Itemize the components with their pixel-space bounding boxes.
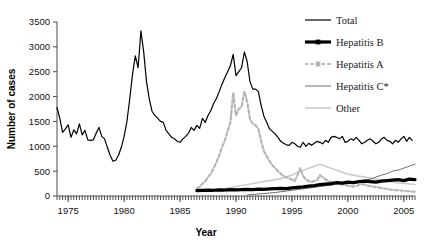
legend-label: Hepatitis B <box>336 37 384 48</box>
legend-swatch-marker <box>316 62 321 67</box>
legend-item-total: Total <box>305 15 358 26</box>
legend-item-hepatitis-b: Hepatitis B <box>305 37 384 48</box>
chart-root: 0500100015002000250030003500197519801985… <box>0 0 426 248</box>
series-line-hepatitis-a <box>197 92 415 192</box>
hepatitis-cases-line-chart: 0500100015002000250030003500197519801985… <box>0 0 426 248</box>
x-tick-label-2005: 2005 <box>393 205 414 216</box>
x-tick-label-1995: 1995 <box>281 205 302 216</box>
plot-area <box>57 31 415 195</box>
legend-label: Hepatitis C* <box>336 81 389 92</box>
y-axis: 0500100015002000250030003500 <box>29 16 57 201</box>
y-tick-label-2000: 2000 <box>29 91 50 102</box>
x-tick-label-2000: 2000 <box>337 205 358 216</box>
x-tick-label-1985: 1985 <box>169 205 190 216</box>
legend-item-hepatitis-a: Hepatitis A <box>305 59 384 70</box>
y-tick-label-500: 500 <box>34 166 50 177</box>
y-tick-label-1500: 1500 <box>29 116 50 127</box>
x-axis: 1975198019851990199520002005 <box>57 196 415 216</box>
x-tick-label-1980: 1980 <box>114 205 135 216</box>
x-tick-label-1975: 1975 <box>58 205 79 216</box>
x-tick-label-1990: 1990 <box>225 205 246 216</box>
legend-label: Hepatitis A <box>336 59 384 70</box>
legend-label: Total <box>336 15 358 26</box>
legend-label: Other <box>336 103 360 114</box>
legend-swatch-marker <box>316 40 321 45</box>
legend-item-hepatitis-c: Hepatitis C* <box>305 81 389 92</box>
y-tick-label-3500: 3500 <box>29 16 50 27</box>
legend-item-other: Other <box>305 103 360 114</box>
y-tick-label-2500: 2500 <box>29 66 50 77</box>
x-axis-title: Year <box>195 227 216 238</box>
y-tick-label-0: 0 <box>45 190 50 201</box>
y-axis-title: Number of cases <box>6 68 17 149</box>
y-tick-label-1000: 1000 <box>29 141 50 152</box>
legend: TotalHepatitis BHepatitis AHepatitis C*O… <box>305 15 389 114</box>
y-tick-label-3000: 3000 <box>29 41 50 52</box>
